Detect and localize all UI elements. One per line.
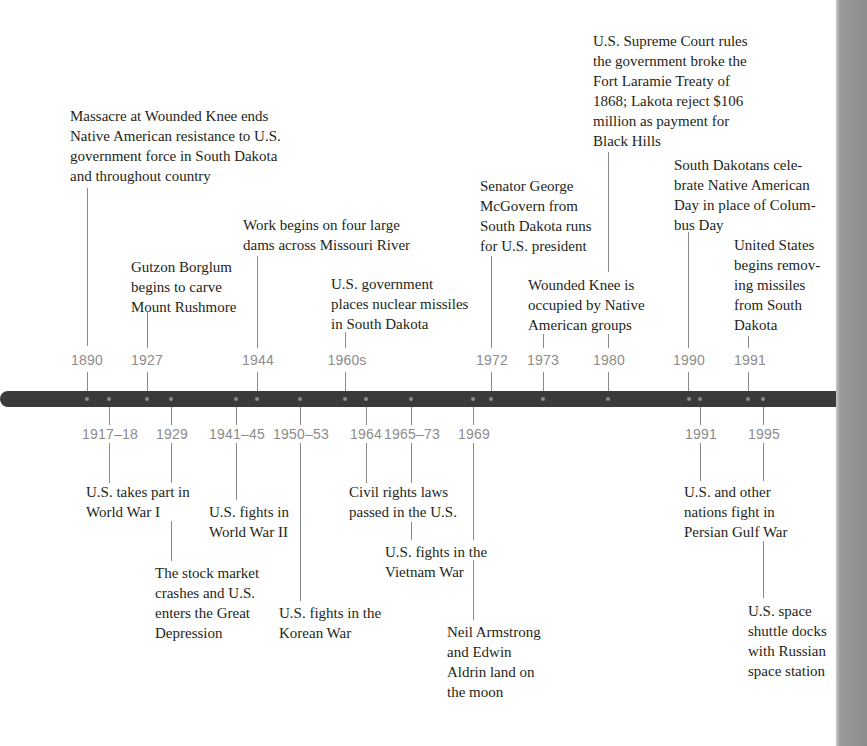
event-1941-45-label: U.S. fights inWorld War II — [209, 502, 289, 542]
event-1991-above-connector — [748, 336, 749, 348]
marker-dot — [145, 397, 149, 401]
event-1960s-connector — [345, 332, 346, 348]
event-1929-label: The stock marketcrashes and U.S. enters … — [155, 563, 259, 643]
event-1991-below-connector — [700, 443, 701, 481]
event-1969-connector — [473, 560, 474, 620]
year-1990-tick — [688, 372, 689, 391]
year-1991-above-tick — [748, 372, 749, 391]
year-1980: 1980 — [593, 352, 625, 368]
marker-dot — [761, 397, 765, 401]
year-1950-53-tick — [300, 407, 301, 425]
marker-dot — [85, 397, 89, 401]
marker-dot — [255, 397, 259, 401]
marker-dot — [298, 397, 302, 401]
event-1980-connector — [608, 152, 609, 272]
event-1965-73-label: U.S. fights in theVietnam War — [385, 542, 487, 582]
marker-dot — [687, 397, 691, 401]
year-1980-tick — [608, 372, 609, 391]
marker-dot — [698, 397, 702, 401]
year-1991-below-tick — [700, 407, 701, 425]
event-1927-label: Gutzon Borglumbegins to carve Mount Rush… — [131, 257, 236, 317]
event-1991-below-label: U.S. and othernations fight in Persian G… — [684, 482, 788, 542]
event-1991-above-label: United Statesbegins remov- ing missilesf… — [734, 235, 820, 335]
event-1927-connector — [147, 312, 148, 348]
year-1995-tick — [763, 407, 764, 425]
marker-dot — [107, 397, 111, 401]
event-1941-45-connector — [236, 443, 237, 500]
event-1890-connector — [87, 188, 88, 346]
year-1929-tick — [171, 407, 172, 425]
event-1917-18-label: U.S. takes part inWorld War I — [86, 482, 190, 522]
year-1969-tick — [473, 407, 474, 425]
event-1972-label: Senator GeorgeMcGovern from South Dakota… — [480, 176, 592, 256]
event-1929-connector — [171, 521, 172, 561]
year-1991-above: 1991 — [734, 352, 766, 368]
marker-dot — [606, 397, 610, 401]
year-1960s-tick — [345, 372, 346, 391]
event-1965-73-connector-upper — [411, 443, 412, 483]
year-1944: 1944 — [242, 352, 274, 368]
year-1950-53: 1950–53 — [273, 426, 329, 442]
year-1969: 1969 — [458, 426, 490, 442]
year-1991-below: 1991 — [685, 426, 717, 442]
marker-dot — [471, 397, 475, 401]
event-1929-connector-upper — [171, 443, 172, 483]
year-1964: 1964 — [350, 426, 382, 442]
event-1944-connector — [257, 256, 258, 348]
year-1990: 1990 — [673, 352, 705, 368]
event-1990-label: South Dakotans cele-brate Native America… — [674, 155, 816, 235]
year-1973: 1973 — [527, 352, 559, 368]
event-1995-connector — [763, 541, 764, 598]
year-1972: 1972 — [476, 352, 508, 368]
marker-dot — [409, 397, 413, 401]
event-1917-18-connector — [109, 443, 110, 483]
event-1964-label: Civil rights lawspassed in the U.S. — [349, 482, 457, 522]
event-1969-label: Neil Armstrongand Edwin Aldrin land onth… — [447, 622, 541, 702]
timeline-bar — [0, 391, 836, 407]
year-1965-73-tick — [411, 407, 412, 425]
year-1917-18: 1917–18 — [82, 426, 138, 442]
marker-dot — [234, 397, 238, 401]
year-1944-tick — [257, 372, 258, 391]
page-edge — [836, 0, 867, 746]
event-1960s-label: U.S. governmentplaces nuclear missiles i… — [331, 274, 468, 334]
year-1995: 1995 — [748, 426, 780, 442]
year-1964-tick — [366, 407, 367, 425]
event-1890-label: Massacre at Wounded Knee endsNative Amer… — [70, 106, 281, 186]
event-1973-label: Wounded Knee isoccupied by Native Americ… — [528, 275, 645, 335]
year-1890-tick — [87, 372, 88, 391]
event-1969-connector-upper — [473, 443, 474, 540]
event-1973-connector — [543, 334, 544, 348]
year-1927-tick — [147, 372, 148, 391]
year-1890: 1890 — [71, 352, 103, 368]
year-1929: 1929 — [156, 426, 188, 442]
event-1995-connector-upper — [763, 443, 764, 481]
year-1973-tick — [543, 372, 544, 391]
marker-dot — [541, 397, 545, 401]
marker-dot — [746, 397, 750, 401]
event-1950-53-connector — [300, 443, 301, 601]
year-1972-tick — [491, 372, 492, 391]
marker-dot — [489, 397, 493, 401]
year-1960s: 1960s — [327, 352, 366, 368]
event-1965-73-connector — [411, 522, 412, 540]
event-1944-label: Work begins on four largedams across Mis… — [243, 215, 410, 255]
year-1917-18-tick — [109, 407, 110, 425]
year-1965-73: 1965–73 — [384, 426, 440, 442]
marker-dot — [169, 397, 173, 401]
event-1950-53-label: U.S. fights in theKorean War — [279, 603, 381, 643]
year-1941-45-tick — [236, 407, 237, 425]
event-1990-connector — [688, 232, 689, 348]
year-1941-45: 1941–45 — [209, 426, 265, 442]
event-1980-connector-lower — [608, 334, 609, 348]
event-1964-connector — [366, 443, 367, 483]
event-1972-connector — [491, 256, 492, 348]
year-1927: 1927 — [131, 352, 163, 368]
marker-dot — [364, 397, 368, 401]
event-1980-label: U.S. Supreme Court rulesthe government b… — [593, 31, 748, 151]
event-1995-label: U.S. spaceshuttle docks with Russianspac… — [748, 601, 827, 681]
marker-dot — [343, 397, 347, 401]
